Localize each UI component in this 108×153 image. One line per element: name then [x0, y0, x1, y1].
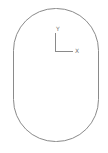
y-axis-label: Y: [56, 26, 60, 32]
diagram-canvas: [0, 0, 108, 153]
x-axis-label: X: [75, 48, 79, 54]
